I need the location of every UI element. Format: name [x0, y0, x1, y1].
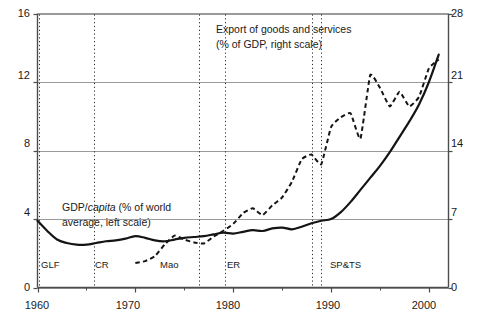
gridlines [38, 15, 449, 289]
data-series [38, 55, 439, 263]
axis-frame [38, 14, 449, 288]
chart-figure: 16 12 8 4 0 28 21 14 7 0 1960 1970 1980 … [0, 0, 479, 321]
series-line-exports [135, 59, 438, 263]
plot-area [0, 0, 479, 321]
series-line-gdp-per-capita [38, 55, 439, 245]
